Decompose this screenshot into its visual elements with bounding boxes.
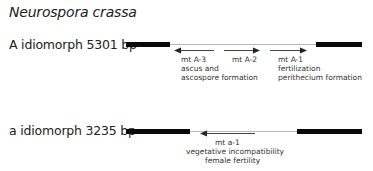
idiomorph-A-label: A idiomorph 5301 bp bbox=[9, 37, 137, 52]
gene-name: mt a-1 bbox=[215, 138, 240, 147]
gene-function: female fertility bbox=[205, 156, 260, 165]
left-flank-bar bbox=[126, 129, 190, 134]
left-flank-bar bbox=[126, 42, 170, 47]
gene-name: mt A-1 bbox=[278, 55, 303, 64]
gene-function: ascospore formation bbox=[181, 73, 258, 82]
idiomorph-a-label: a idiomorph 3235 bp bbox=[9, 123, 136, 138]
gene-function: fertilization bbox=[278, 64, 320, 73]
idiomorph-line bbox=[170, 44, 316, 45]
right-arrow-icon bbox=[270, 47, 307, 54]
left-arrow-icon bbox=[200, 130, 255, 137]
gene-name: mt A-2 bbox=[232, 55, 257, 64]
gene-function: vegetative incompatibility bbox=[186, 147, 284, 156]
right-flank-bar bbox=[316, 42, 362, 47]
gene-name: mt A-3 bbox=[181, 55, 206, 64]
gene-function: perithecium formation bbox=[278, 73, 362, 82]
right-flank-bar bbox=[297, 129, 362, 134]
gene-function: ascus and bbox=[181, 64, 219, 73]
right-arrow-icon bbox=[224, 47, 260, 54]
left-arrow-icon bbox=[174, 47, 214, 54]
figure-title: Neurospora crassa bbox=[9, 4, 137, 20]
